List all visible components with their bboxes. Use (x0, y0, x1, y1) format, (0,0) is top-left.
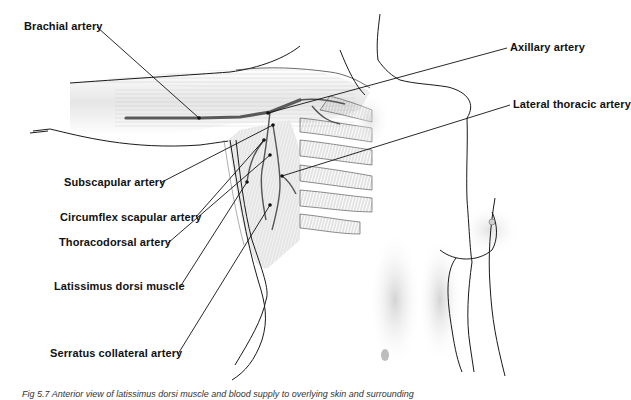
label-brachial-artery: Brachial artery (24, 20, 103, 33)
leader-dot-axillary-artery (266, 111, 270, 115)
latissimus-dorsi-muscle (224, 120, 300, 365)
leader-dot-lateral-thoracic-artery (280, 174, 284, 178)
label-circumflex-scapular-artery: Circumflex scapular artery (60, 211, 201, 224)
label-latissimus-dorsi-muscle: Latissimus dorsi muscle (54, 280, 185, 293)
label-subscapular-artery: Subscapular artery (64, 176, 165, 189)
leader-dot-brachial-artery (197, 116, 201, 120)
label-lateral-thoracic-artery: Lateral thoracic artery (513, 98, 631, 111)
figure-caption: Fig 5.7 Anterior view of latissimus dors… (22, 389, 414, 400)
label-serratus-collateral-artery: Serratus collateral artery (50, 347, 182, 360)
leader-line-serratus-collateral-artery (178, 205, 270, 354)
leader-dot-subscapular-artery (271, 123, 275, 127)
leader-dot-latissimus-dorsi-muscle (245, 180, 249, 184)
leader-dot-circumflex-scapular-artery (262, 138, 266, 142)
label-thoracodorsal-artery: Thoracodorsal artery (59, 236, 171, 249)
leader-dot-thoracodorsal-artery (268, 153, 272, 157)
leader-dot-serratus-collateral-artery (268, 203, 272, 207)
label-axillary-artery: Axillary artery (510, 41, 585, 54)
